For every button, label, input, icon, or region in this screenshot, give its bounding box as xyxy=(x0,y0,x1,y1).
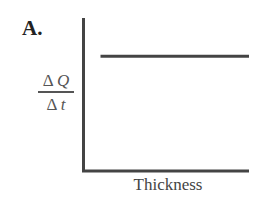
x-axis-label: Thickness xyxy=(118,176,218,193)
plot-area xyxy=(0,0,270,198)
